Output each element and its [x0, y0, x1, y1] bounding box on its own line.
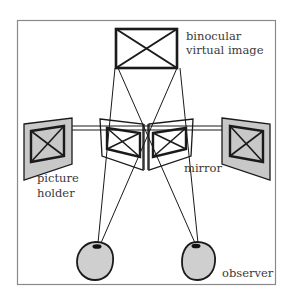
label-mirror: mirror	[184, 161, 223, 175]
label-picture-holder-line2: holder	[37, 186, 75, 200]
label-picture-holder-line1: picture	[37, 171, 79, 185]
label-virtual-image-line1: binocular	[186, 29, 242, 43]
right-pupil-icon	[192, 244, 201, 249]
binocular-virtual-image	[116, 29, 177, 68]
sight-lines	[63, 68, 230, 243]
right-eye	[182, 242, 215, 280]
label-observer: observer	[222, 266, 274, 280]
left-pupil-icon	[93, 244, 102, 249]
left-mirror	[100, 119, 143, 170]
stereoscope-diagram: binocular virtual image picture holder m…	[0, 0, 289, 302]
label-virtual-image-line2: virtual image	[185, 43, 264, 57]
left-eye	[77, 242, 113, 280]
right-picture-holder	[222, 118, 270, 180]
sight-line-right-eye-outer	[180, 68, 198, 243]
